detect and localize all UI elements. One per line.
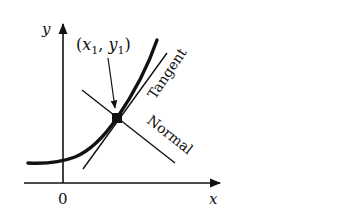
point-label: (x1, y1): [76, 35, 131, 57]
normal-label: Normal: [144, 112, 196, 158]
curve: [28, 40, 157, 163]
tangency-point: [112, 113, 122, 123]
origin-label: 0: [58, 190, 68, 208]
tangent-normal-diagram: y x 0 (x1, y1) Tangent Normal: [0, 0, 346, 216]
point-pointer-arrow: [108, 58, 115, 108]
y-axis-label: y: [41, 20, 51, 38]
x-axis-label: x: [209, 190, 218, 208]
